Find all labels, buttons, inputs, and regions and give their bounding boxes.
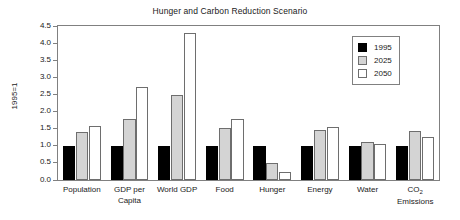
- legend-swatch-icon: [358, 43, 367, 52]
- bar[interactable]: [327, 127, 339, 180]
- bar[interactable]: [111, 146, 123, 180]
- bar[interactable]: [136, 87, 148, 180]
- y-axis-tick-label: 3.5: [40, 55, 51, 64]
- y-axis-tick-label: 2.5: [40, 89, 51, 98]
- bar[interactable]: [231, 119, 243, 180]
- bar-group: [63, 26, 101, 180]
- bar[interactable]: [206, 146, 218, 180]
- legend-swatch-icon: [358, 69, 367, 78]
- bar-group: [253, 26, 291, 180]
- bar-chart: Hunger and Carbon Reduction Scenario 199…: [0, 0, 460, 220]
- y-axis-tick-label: 1.0: [40, 140, 51, 149]
- bar[interactable]: [123, 119, 135, 180]
- chart-title: Hunger and Carbon Reduction Scenario: [0, 6, 460, 16]
- legend-item-label: 1995: [374, 43, 392, 52]
- y-axis-tick-label: 0.0: [40, 175, 51, 184]
- y-axis-tick-label: 4.5: [40, 21, 51, 30]
- y-axis-tick-label: 4.0: [40, 38, 51, 47]
- y-axis: 0.00.51.01.52.02.53.03.54.04.5: [0, 0, 57, 220]
- bar[interactable]: [184, 33, 196, 180]
- bar[interactable]: [396, 146, 408, 180]
- y-axis-tick-label: 1.5: [40, 123, 51, 132]
- bar[interactable]: [301, 146, 313, 180]
- legend: 1995 2025 2050: [352, 36, 400, 85]
- bar-group: [206, 26, 244, 180]
- bar[interactable]: [76, 132, 88, 180]
- x-axis-category-label: CO2Emissions: [384, 184, 446, 207]
- bar[interactable]: [349, 146, 361, 180]
- legend-item[interactable]: 2050: [358, 67, 392, 80]
- bar-group: [301, 26, 339, 180]
- bar[interactable]: [63, 146, 75, 180]
- legend-item[interactable]: 1995: [358, 41, 392, 54]
- bar[interactable]: [266, 163, 278, 180]
- bar-group: [158, 26, 196, 180]
- bar[interactable]: [314, 130, 326, 180]
- bar-group: [111, 26, 149, 180]
- bar[interactable]: [361, 142, 373, 180]
- bar[interactable]: [422, 137, 434, 180]
- bar[interactable]: [253, 146, 265, 180]
- legend-item[interactable]: 2025: [358, 54, 392, 67]
- x-axis-labels: PopulationGDP perCapitaWorld GDPFoodHung…: [58, 184, 439, 218]
- bar[interactable]: [374, 144, 386, 180]
- legend-swatch-icon: [358, 56, 367, 65]
- legend-item-label: 2025: [374, 56, 392, 65]
- bar[interactable]: [409, 131, 421, 180]
- y-axis-tick-label: 0.5: [40, 157, 51, 166]
- bar[interactable]: [279, 172, 291, 180]
- legend-item-label: 2050: [374, 69, 392, 78]
- bar[interactable]: [89, 126, 101, 180]
- bar[interactable]: [171, 95, 183, 180]
- bar[interactable]: [219, 128, 231, 180]
- y-axis-tick-label: 2.0: [40, 106, 51, 115]
- y-axis-tick-label: 3.0: [40, 72, 51, 81]
- bar-group: [396, 26, 434, 180]
- bar[interactable]: [158, 146, 170, 180]
